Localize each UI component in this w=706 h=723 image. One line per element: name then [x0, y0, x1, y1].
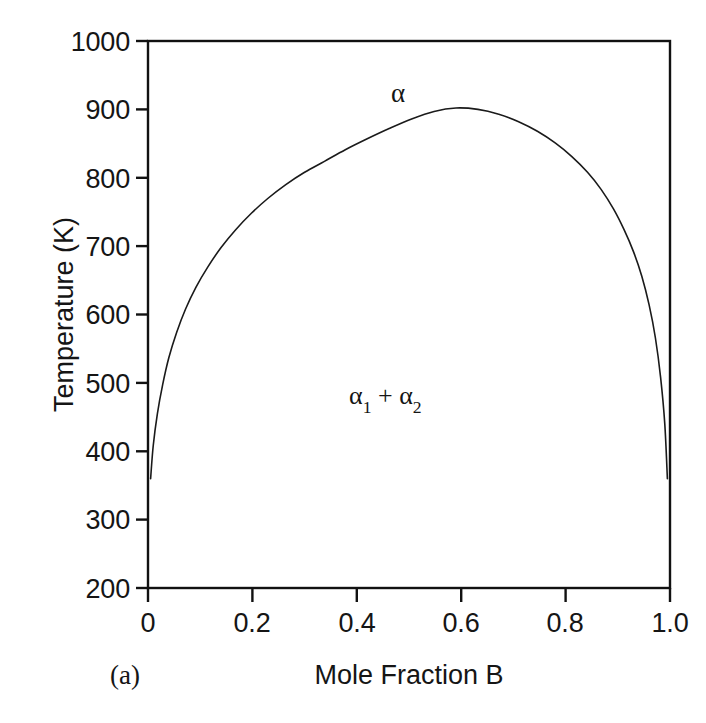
x-tick-label-1.0: 1.0	[630, 608, 706, 639]
x-axis-title: Mole Fraction B	[148, 660, 670, 691]
phase-diagram-figure: 1000 900 800 700 600 500 400 300 200 0 0…	[0, 0, 706, 723]
y-axis-title: Temperature (K)	[44, 41, 84, 588]
x-tick-label-0.4: 0.4	[317, 608, 397, 639]
two-phase-alpha1: α	[349, 381, 363, 410]
two-phase-alpha2: α	[399, 381, 413, 410]
x-tick-label-0: 0	[108, 608, 188, 639]
x-tick-label-0.2: 0.2	[212, 608, 292, 639]
panel-label: (a)	[110, 660, 140, 691]
two-phase-sub1: 1	[363, 397, 372, 417]
plot-frame	[148, 41, 670, 588]
two-phase-plus: +	[371, 381, 399, 410]
x-axis-ticks	[148, 588, 670, 602]
y-axis-ticks	[136, 41, 148, 588]
two-phase-region-label: α1 + α2	[349, 381, 422, 415]
single-phase-alpha-label: α	[391, 78, 405, 109]
x-tick-label-0.8: 0.8	[525, 608, 605, 639]
binodal-curve	[151, 108, 668, 479]
two-phase-sub2: 2	[413, 397, 422, 417]
x-tick-label-0.6: 0.6	[421, 608, 501, 639]
